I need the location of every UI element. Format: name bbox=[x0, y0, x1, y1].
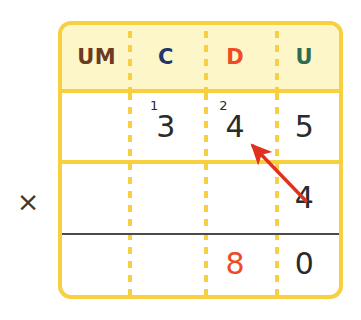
cell-c-result bbox=[131, 232, 200, 295]
header-cell-d: D bbox=[201, 25, 270, 89]
digit-value: 0 bbox=[295, 249, 314, 279]
worksheet-canvas: × UM C D U bbox=[0, 0, 361, 320]
digit-value: 8 bbox=[226, 249, 245, 279]
result-row: 8 0 bbox=[62, 232, 339, 295]
multiplication-sign: × bbox=[8, 182, 48, 222]
multiplier-row: 4 bbox=[62, 164, 339, 232]
digit-value: 3 bbox=[156, 112, 175, 142]
cell-d-multiplicand: 2 4 bbox=[201, 93, 270, 160]
cell-c-multiplicand: 1 3 bbox=[131, 93, 200, 160]
header-cell-u: U bbox=[270, 25, 339, 89]
cell-d-multiplier bbox=[201, 164, 270, 232]
table-header-row: UM C D U bbox=[62, 25, 339, 93]
header-um-label: UM bbox=[77, 45, 116, 69]
header-divider-3 bbox=[275, 31, 279, 89]
header-d-label: D bbox=[226, 45, 244, 69]
cell-um-result bbox=[62, 232, 131, 295]
cell-um-multiplier bbox=[62, 164, 131, 232]
digit-value: 4 bbox=[295, 183, 314, 213]
header-cell-c: C bbox=[131, 25, 200, 89]
cell-u-multiplier: 4 bbox=[270, 164, 339, 232]
digit-value: 5 bbox=[295, 112, 314, 142]
cell-u-multiplicand: 5 bbox=[270, 93, 339, 160]
carry-digit: 1 bbox=[150, 99, 158, 112]
cell-c-multiplier bbox=[131, 164, 200, 232]
header-divider-2 bbox=[204, 31, 208, 89]
carry-digit: 2 bbox=[219, 99, 227, 112]
digit-value: 4 bbox=[226, 112, 245, 142]
header-divider-1 bbox=[128, 31, 132, 89]
cell-u-result: 0 bbox=[270, 232, 339, 295]
cell-d-result: 8 bbox=[201, 232, 270, 295]
header-u-label: U bbox=[296, 45, 314, 69]
header-cell-um: UM bbox=[62, 25, 131, 89]
multiplicand-row: 1 3 2 4 5 bbox=[62, 93, 339, 160]
header-c-label: C bbox=[158, 45, 174, 69]
place-value-table: UM C D U 1 3 bbox=[58, 21, 343, 299]
cell-um-multiplicand bbox=[62, 93, 131, 160]
